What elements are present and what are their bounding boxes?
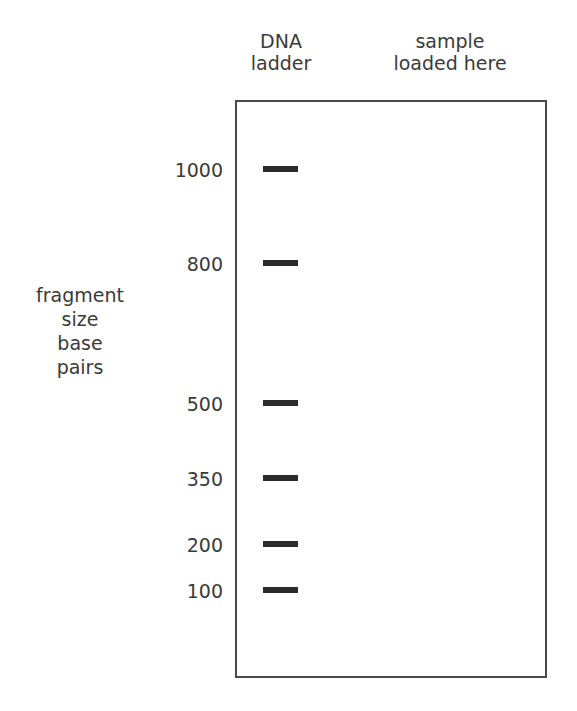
ladder-band-500 [263,400,298,406]
ladder-lane-header: DNA ladder [236,30,326,74]
sample-header-line1: sample [375,30,525,52]
size-label-200: 200 [187,534,223,556]
sample-lane-header: sample loaded here [375,30,525,74]
axis-title-line: pairs [20,355,140,379]
ladder-header-line2: ladder [236,52,326,74]
size-label-1000: 1000 [175,159,223,181]
size-label-100: 100 [187,580,223,602]
ladder-band-800 [263,260,298,266]
size-label-500: 500 [187,393,223,415]
ladder-band-350 [263,475,298,481]
ladder-header-line1: DNA [236,30,326,52]
size-label-800: 800 [187,253,223,275]
size-label-350: 350 [187,468,223,490]
sample-header-line2: loaded here [375,52,525,74]
axis-title-line: fragment [20,283,140,307]
axis-title-line: size [20,307,140,331]
y-axis-title: fragment size base pairs [20,283,140,379]
axis-title-line: base [20,331,140,355]
ladder-band-200 [263,541,298,547]
ladder-band-1000 [263,166,298,172]
ladder-band-100 [263,587,298,593]
